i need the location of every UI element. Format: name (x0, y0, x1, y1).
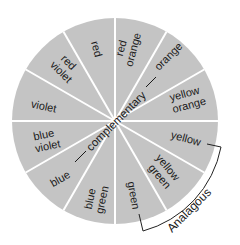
color-wheel-diagram: red red orange orange yellow orange yell… (0, 0, 240, 245)
